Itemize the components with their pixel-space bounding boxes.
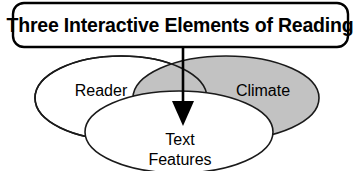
label-climate: Climate [236,82,290,99]
label-text-features-line1: Text [165,131,195,148]
diagram-canvas: Three Interactive Elements of Reading Re… [0,0,354,171]
title-label: Three Interactive Elements of Reading [7,14,354,36]
label-text-features-line2: Features [148,151,211,168]
label-reader: Reader [75,82,128,99]
venn-diagram-graphic: Three Interactive Elements of Reading Re… [0,0,354,171]
